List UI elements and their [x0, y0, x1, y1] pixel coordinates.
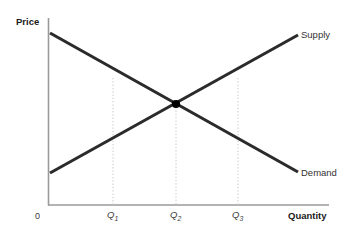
origin-label: 0: [35, 211, 40, 221]
x-tick-q3: Q 3: [232, 209, 244, 222]
x-tick-q1: Q 1: [107, 209, 119, 222]
x-tick-q1-subscript: 1: [115, 215, 119, 222]
x-tick-q2: Q 2: [170, 209, 182, 222]
x-axis-label: Quantity: [288, 210, 327, 221]
x-tick-q2-subscript: 2: [177, 215, 182, 222]
demand-curve-label: Demand: [301, 167, 337, 178]
supply-demand-chart: Price Quantity 0 Supply Demand Q 1 Q 2 Q…: [0, 0, 350, 234]
y-axis-label: Price: [16, 16, 39, 27]
equilibrium-point-marker: [172, 100, 180, 108]
x-tick-q3-subscript: 3: [240, 215, 244, 222]
chart-canvas: Price Quantity 0 Supply Demand Q 1 Q 2 Q…: [0, 0, 350, 234]
supply-curve-label: Supply: [301, 29, 330, 40]
